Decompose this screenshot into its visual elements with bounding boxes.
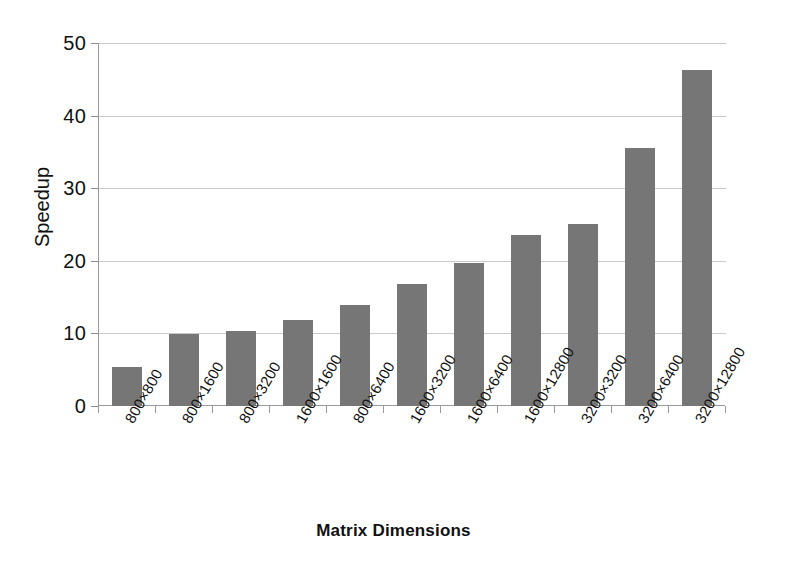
x-tick-label-10: 3200×12800 [692, 345, 748, 426]
x-tick-label-6: 1600×6400 [464, 352, 516, 426]
x-tick-label-1: 800×1600 [179, 359, 227, 426]
x-axis-tick-labels: 800×800 800×1600 800×3200 1600×1600 800×… [0, 0, 787, 566]
x-axis-title: Matrix Dimensions [0, 521, 787, 541]
speedup-bar-chart: 50 40 30 20 10 0 800×800 80 [0, 0, 787, 566]
x-tick-label-2: 800×3200 [236, 359, 284, 426]
x-tick-label-8: 3200×3200 [578, 352, 630, 426]
y-axis-title: Speedup [31, 137, 53, 277]
x-tick-label-7: 1600×12800 [521, 345, 577, 426]
x-tick-label-9: 3200×6400 [635, 352, 687, 426]
x-tick-label-0: 800×800 [122, 366, 166, 426]
x-tick-label-3: 1600×1600 [293, 352, 345, 426]
x-tick-label-5: 1600×3200 [407, 352, 459, 426]
x-tick-label-4: 800×6400 [350, 359, 398, 426]
